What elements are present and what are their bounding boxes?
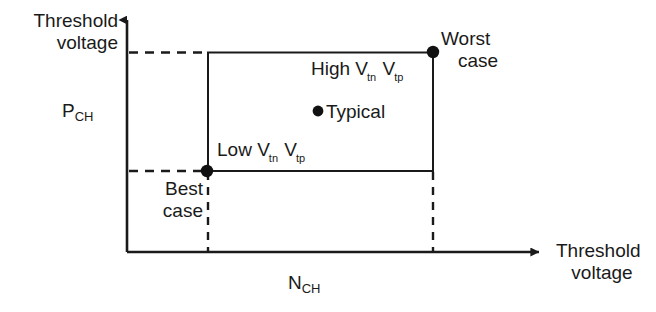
nch-symbol: N xyxy=(288,272,302,293)
typical-point xyxy=(313,106,324,117)
nch-axis-variable-label: NCH xyxy=(288,272,321,296)
worst-case-line2: case xyxy=(441,50,515,72)
worst-case-point xyxy=(427,46,439,58)
pch-subscript: CH xyxy=(75,109,94,124)
typical-point-label: Typical xyxy=(326,101,385,123)
x-axis-title: Threshold voltage xyxy=(556,240,656,284)
low-vt-sub-tn-n: n xyxy=(272,152,278,164)
high-threshold-corner-label: High Vtn Vtp xyxy=(311,58,404,82)
y-axis-title-line1: Threshold xyxy=(34,10,119,31)
y-axis-title: Threshold voltage xyxy=(0,10,118,54)
low-threshold-corner-label: Low Vtn Vtp xyxy=(217,139,306,163)
high-vt-prefix: High V xyxy=(311,58,368,79)
high-vt-mid: V xyxy=(377,58,395,79)
pch-axis-variable-label: PCH xyxy=(62,100,93,124)
best-case-point xyxy=(201,165,213,177)
low-vt-sub-tp-p: p xyxy=(299,152,305,164)
high-vt-sub-tp-p: p xyxy=(397,71,403,83)
best-case-line1: Best xyxy=(165,178,203,199)
worst-case-label: Worst case xyxy=(441,28,521,72)
high-vt-sub-tn-n: n xyxy=(370,71,376,83)
x-axis-title-line2: voltage xyxy=(556,262,648,284)
pch-symbol: P xyxy=(62,100,75,121)
y-axis-title-line2: voltage xyxy=(0,32,118,54)
best-case-label: Best case xyxy=(118,178,203,222)
low-vt-prefix: Low V xyxy=(217,139,270,160)
worst-case-line1: Worst xyxy=(441,28,490,49)
x-axis-title-line1: Threshold xyxy=(556,240,641,261)
low-vt-mid: V xyxy=(279,139,297,160)
nch-subscript: CH xyxy=(302,281,321,296)
process-corner-diagram: Threshold voltage Threshold voltage PCH … xyxy=(0,0,656,312)
best-case-line2: case xyxy=(118,200,203,222)
